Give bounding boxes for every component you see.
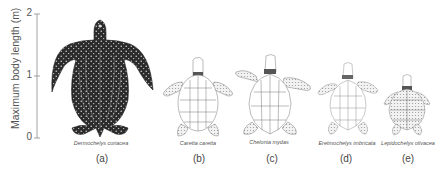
hawksbill-turtle-illustration [318,63,378,135]
y-axis [34,14,40,138]
olive-ridley-turtle-illustration [384,75,430,136]
species-label-a: Dermochelys coriacea [74,140,128,146]
figure-artwork [0,0,448,173]
panel-label-c: (c) [266,153,278,164]
panel-label-d: (d) [340,153,352,164]
panel-label-b: (b) [193,153,205,164]
species-label-e: Lepidochelys olivacea [381,140,435,146]
leatherback-turtle-illustration [52,20,153,137]
panel-label-a: (a) [96,153,108,164]
loggerhead-turtle-illustration [164,57,233,136]
species-label-c: Chelonia mydas [249,139,288,145]
species-label-b: Caretta caretta [180,140,216,146]
green-turtle-illustration [236,55,311,135]
species-label-d: Eretmochelys imbricata [318,140,375,146]
panel-label-e: (e) [402,153,414,164]
